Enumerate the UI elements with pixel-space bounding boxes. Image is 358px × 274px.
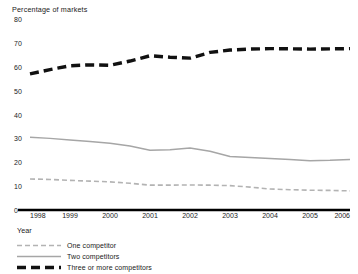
x-axis-tick-2000: 2000 (102, 212, 118, 219)
x-axis-tick-1998: 1998 (30, 212, 46, 219)
y-axis-tick-20: 20 (14, 159, 36, 166)
y-axis-tick-50: 50 (14, 87, 36, 94)
x-axis-tick-2003: 2003 (222, 212, 238, 219)
legend-label-1: Two competitors (67, 253, 119, 260)
legend-swatch-icon-1 (17, 251, 61, 262)
plot-area (0, 0, 358, 274)
series-line-0 (30, 179, 350, 191)
y-axis-tick-40: 40 (14, 111, 36, 118)
y-axis-tick-30: 30 (14, 135, 36, 142)
x-axis-tick-2002: 2002 (182, 212, 198, 219)
legend-label-0: One competitor (67, 242, 116, 249)
series-line-1 (30, 137, 350, 161)
x-axis-tick-2005: 2005 (302, 212, 318, 219)
legend-item-1: Two competitors (17, 251, 337, 262)
legend-swatch-icon-0 (17, 240, 61, 251)
x-axis-tick-1999: 1999 (62, 212, 78, 219)
legend-item-0: One competitor (17, 240, 337, 251)
y-axis-tick-10: 10 (14, 183, 36, 190)
chart-plot-svg (0, 0, 358, 274)
chart-container: Percentage of markets 01020304050607080 … (0, 0, 358, 274)
x-axis-tick-2001: 2001 (142, 212, 158, 219)
y-axis-tick-60: 60 (14, 63, 36, 70)
x-axis-title: Year (17, 226, 32, 235)
x-axis-tick-2006: 2006 (334, 212, 350, 219)
legend-label-2: Three or more competitors (67, 264, 152, 271)
y-axis-tick-80: 80 (14, 16, 36, 23)
y-axis-tick-70: 70 (14, 39, 36, 46)
legend-swatch-icon-2 (17, 262, 61, 273)
series-line-2 (30, 49, 350, 74)
legend-item-2: Three or more competitors (17, 262, 337, 273)
chart-legend: One competitorTwo competitorsThree or mo… (17, 240, 337, 273)
x-axis-tick-2004: 2004 (262, 212, 278, 219)
